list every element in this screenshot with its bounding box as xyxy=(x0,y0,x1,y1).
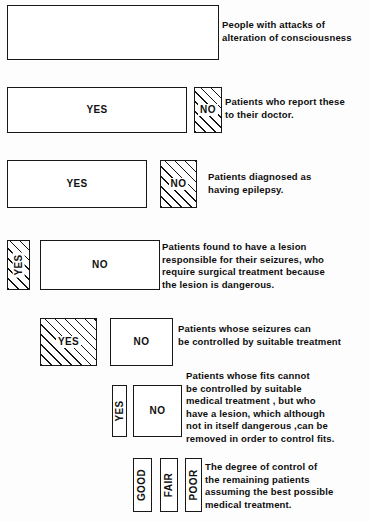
dangerous-lesion-no-label: NO xyxy=(92,260,108,270)
controlled-yes-label: YES xyxy=(56,336,81,348)
control-poor-box: POOR xyxy=(185,458,202,512)
control-poor-label: POOR xyxy=(189,469,199,500)
caption-row-3: Patients diagnosed as having epilepsy. xyxy=(208,171,358,196)
diagnosed-yes-label: YES xyxy=(66,179,87,189)
caption-row-2: Patients who report these to their docto… xyxy=(225,96,370,121)
removable-lesion-no-label: NO xyxy=(150,406,166,416)
reported-yes-label: YES xyxy=(86,105,107,115)
reported-no-label: NO xyxy=(198,104,218,116)
removable-lesion-yes-label: YES xyxy=(115,400,125,421)
diagnosed-no-box: NO xyxy=(160,160,197,208)
control-fair-label: FAIR xyxy=(164,473,174,497)
controlled-no-box: NO xyxy=(110,318,173,366)
controlled-no-label: NO xyxy=(134,337,150,347)
control-good-box: GOOD xyxy=(133,458,152,512)
patient-flow-diagram: People with attacks of alteration of con… xyxy=(0,0,370,522)
caption-row-7: The degree of control of the remaining p… xyxy=(205,461,370,511)
caption-row-1: People with attacks of alteration of con… xyxy=(222,19,367,44)
diagnosed-yes-box: YES xyxy=(7,160,147,208)
control-fair-box: FAIR xyxy=(160,458,178,512)
removable-lesion-yes-box: YES xyxy=(112,385,127,437)
controlled-yes-box: YES xyxy=(40,318,97,366)
reported-yes-box: YES xyxy=(7,87,187,133)
reported-no-box: NO xyxy=(194,87,222,133)
total-population-box xyxy=(7,5,219,60)
removable-lesion-no-box: NO xyxy=(133,385,182,437)
dangerous-lesion-yes-label: YES xyxy=(13,252,25,277)
caption-row-5: Patients whose seizures can be controlle… xyxy=(178,323,368,348)
dangerous-lesion-no-box: NO xyxy=(40,240,160,290)
caption-row-6: Patients whose fits cannot be controlled… xyxy=(186,370,370,446)
diagnosed-no-label: NO xyxy=(169,178,189,190)
control-good-label: GOOD xyxy=(138,469,148,501)
dangerous-lesion-yes-box: YES xyxy=(7,240,30,290)
caption-row-4: Patients found to have a lesion responsi… xyxy=(162,241,367,291)
